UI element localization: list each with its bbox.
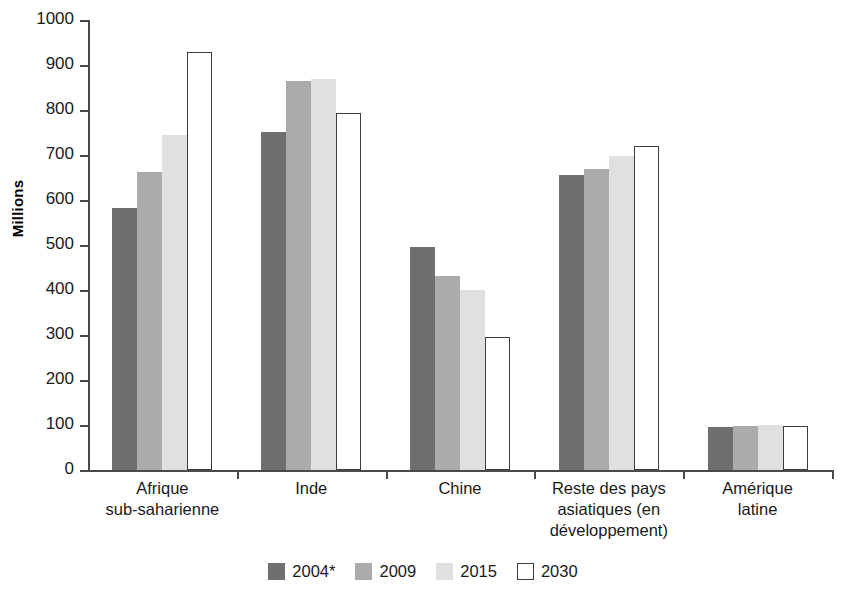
bar-group <box>112 20 212 470</box>
legend-swatch-icon <box>436 563 453 580</box>
bar <box>286 81 311 470</box>
category-label-line: développement) <box>534 520 683 541</box>
bar <box>733 426 758 470</box>
y-tick: 600 <box>80 200 88 202</box>
y-tick-label: 900 <box>46 54 74 74</box>
bar <box>261 132 286 470</box>
y-tick-label: 400 <box>46 279 74 299</box>
y-tick: 500 <box>80 245 88 247</box>
x-axis-category-label: Afriquesub-saharienne <box>88 478 237 520</box>
bar <box>311 79 336 471</box>
y-tick: 100 <box>80 425 88 427</box>
legend-swatch-icon <box>517 563 534 580</box>
bar-group <box>261 20 361 470</box>
x-axis-category-label: Amériquelatine <box>683 478 832 520</box>
y-tick: 0 <box>80 470 88 472</box>
category-label-line: Afrique <box>88 478 237 499</box>
x-tick <box>832 470 834 479</box>
bar <box>460 290 485 470</box>
y-tick: 700 <box>80 155 88 157</box>
category-label-line: Reste des pays <box>534 478 683 499</box>
bar <box>187 52 212 471</box>
y-tick: 200 <box>80 380 88 382</box>
legend-label: 2015 <box>460 562 497 581</box>
legend-swatch-icon <box>268 563 285 580</box>
category-label-line: sub-saharienne <box>88 499 237 520</box>
bar <box>609 156 634 470</box>
bar-group <box>708 20 808 470</box>
y-axis-line <box>88 20 90 471</box>
bar <box>112 208 137 470</box>
y-tick: 900 <box>80 65 88 67</box>
y-tick: 300 <box>80 335 88 337</box>
bar <box>410 247 435 470</box>
legend-item[interactable]: 2015 <box>436 562 497 581</box>
y-tick-label: 1000 <box>36 9 74 29</box>
y-tick-label: 800 <box>46 99 74 119</box>
x-axis-category-label: Chine <box>386 478 535 499</box>
bar <box>758 425 783 470</box>
y-tick: 800 <box>80 110 88 112</box>
x-axis-category-label: Reste des paysasiatiques (endéveloppemen… <box>534 478 683 541</box>
bar <box>708 427 733 470</box>
legend-label: 2030 <box>541 562 578 581</box>
category-label-line: Amérique <box>683 478 832 499</box>
legend-item[interactable]: 2009 <box>355 562 416 581</box>
bar <box>137 172 162 470</box>
x-axis-category-label: Inde <box>237 478 386 499</box>
bar <box>783 426 808 470</box>
bar <box>485 337 510 470</box>
bar <box>584 169 609 470</box>
category-label-line: asiatiques (en <box>534 499 683 520</box>
bar-chart: Millions 1000900800700600500400300200100… <box>0 0 846 590</box>
legend-swatch-icon <box>355 563 372 580</box>
bar <box>435 276 460 470</box>
bar <box>559 175 584 470</box>
legend-label: 2004* <box>292 562 335 581</box>
y-tick: 400 <box>80 290 88 292</box>
category-label-line: Inde <box>237 478 386 499</box>
bar-group <box>410 20 510 470</box>
x-axis-line <box>88 470 832 472</box>
bar-group <box>559 20 659 470</box>
category-label-line: Chine <box>386 478 535 499</box>
y-tick-label: 600 <box>46 189 74 209</box>
plot-area: 10009008007006005004003002001000 <box>88 20 832 470</box>
y-tick-label: 500 <box>46 234 74 254</box>
legend-item[interactable]: 2030 <box>517 562 578 581</box>
bar <box>336 113 361 470</box>
y-tick-label: 300 <box>46 324 74 344</box>
legend-item[interactable]: 2004* <box>268 562 335 581</box>
y-axis-title: Millions <box>9 169 26 249</box>
category-label-line: latine <box>683 499 832 520</box>
legend-label: 2009 <box>379 562 416 581</box>
y-tick-label: 200 <box>46 369 74 389</box>
y-tick: 1000 <box>80 20 88 22</box>
bar <box>162 135 187 470</box>
chart-legend: 2004*200920152030 <box>0 562 846 581</box>
bar <box>634 146 659 470</box>
y-tick-label: 100 <box>46 414 74 434</box>
y-tick-label: 0 <box>65 459 74 479</box>
y-tick-label: 700 <box>46 144 74 164</box>
